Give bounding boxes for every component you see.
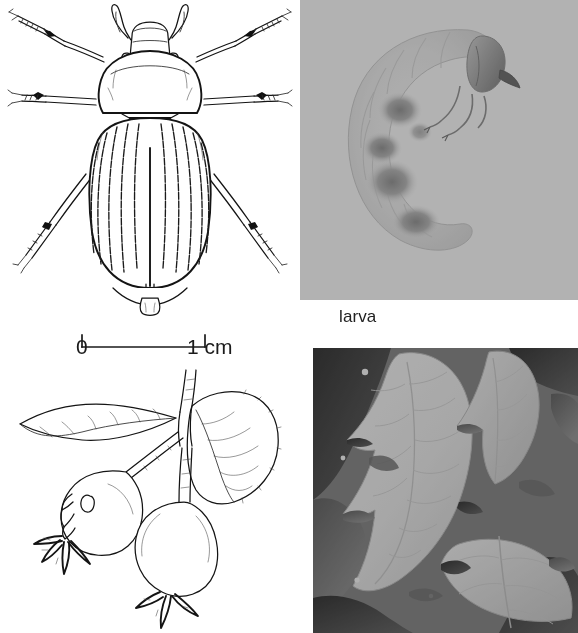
beetle-elytra	[89, 118, 210, 294]
beetle-pronotum	[99, 51, 201, 113]
scale-end-label: 1 cm	[187, 336, 233, 357]
larva-caption: larva	[339, 308, 376, 325]
larva-gut-spot	[392, 205, 440, 239]
plant-damaged-fruit	[34, 471, 143, 574]
beetle-pygidium	[113, 288, 187, 315]
scale-start-label: 0	[76, 336, 88, 357]
fruit-feeding-hole	[81, 495, 94, 512]
larva-mandible	[499, 70, 520, 88]
plant-right-leaf	[187, 390, 281, 504]
figure-plate: 0 1 cm	[0, 0, 578, 633]
larva-gut-spot	[366, 160, 418, 204]
beetle-left-hindleg	[13, 174, 92, 273]
leaf-damage-photograph-panel	[313, 348, 578, 633]
larva-photo	[300, 0, 578, 300]
larva-head-capsule	[467, 36, 505, 92]
leaf-damage-photo	[313, 348, 578, 633]
plant-intact-fruit	[135, 502, 217, 628]
beetle-left-foreleg	[9, 9, 104, 62]
beetle-left-midleg	[8, 90, 96, 106]
fruit-branch-illustration-panel	[0, 366, 300, 633]
larva-legs	[430, 86, 486, 135]
beetle-right-foreleg	[196, 9, 291, 62]
larva-gut-spot	[362, 132, 402, 164]
beetle-right-hindleg	[208, 174, 287, 273]
scale-bar: 0 1 cm	[60, 316, 275, 366]
plant-left-pedicel	[126, 432, 183, 478]
larva-photograph-panel	[300, 0, 578, 300]
larva-gut-spot	[378, 92, 422, 128]
beetle-illustration-panel	[0, 0, 300, 316]
beetle-right-midleg	[204, 90, 292, 106]
larva-gut-spot	[408, 122, 432, 142]
plant-left-leaf	[20, 404, 176, 440]
